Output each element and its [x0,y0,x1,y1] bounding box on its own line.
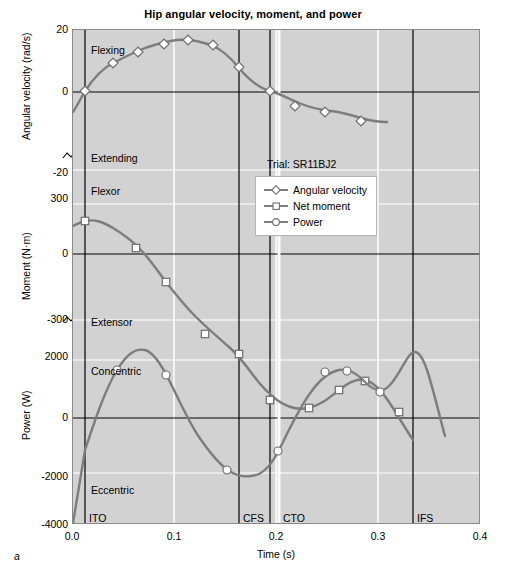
chart-title: Hip angular velocity, moment, and power [0,8,506,20]
plot-area: Flexing Extending Flexor Extensor Concen… [72,29,480,524]
event-label-ito: ITO [89,512,106,524]
event-label-cfs: CFS [243,512,264,524]
x-tick-2: 0.2 [256,530,296,542]
figure-container: Hip angular velocity, moment, and power … [0,0,506,577]
y-axis-label-moment: Moment (N·m) [20,232,32,300]
y-tick-av-neg20: -20 [24,166,68,178]
annotation-flexor: Flexor [91,185,120,197]
trial-label: Trial: SR11BJ2 [267,158,336,170]
x-tick-1: 0.1 [154,530,194,542]
annotation-extensor: Extensor [91,316,132,328]
y-tick-pow-2000: 2000 [24,350,68,362]
annotation-concentric: Concentric [91,365,141,377]
y-tick-pow-neg4000: -4000 [24,518,68,530]
legend-item-angular-velocity[interactable]: Angular velocity [263,182,367,198]
x-tick-0: 0.0 [52,530,92,542]
y-tick-pow-neg2000: -2000 [24,470,68,482]
y-tick-pow-0: 0 [24,411,68,423]
y-tick-mom-0: 0 [24,247,68,259]
series-markers-power [113,366,384,474]
legend-label-angular-velocity: Angular velocity [293,184,367,196]
legend: Angular velocity Net moment Power [255,176,377,236]
x-tick-4: 0.4 [460,530,500,542]
legend-label-net-moment: Net moment [293,200,350,212]
event-label-ifs: IFS [417,512,433,524]
plot-svg [73,30,479,523]
annotation-eccentric: Eccentric [91,484,134,496]
y-tick-av-0: 0 [24,85,68,97]
x-tick-3: 0.3 [358,530,398,542]
event-lines [85,30,413,523]
annotation-flexing: Flexing [91,44,125,56]
legend-item-net-moment[interactable]: Net moment [263,198,367,214]
legend-marker-circle-icon [263,216,289,228]
series-net-moment [73,217,413,440]
legend-marker-diamond-icon [263,184,289,196]
annotation-extending: Extending [91,152,138,164]
x-axis-label: Time (s) [216,548,336,560]
y-tick-mom-300: 300 [24,192,68,204]
legend-label-power: Power [293,216,323,228]
legend-item-power[interactable]: Power [263,214,367,230]
panel-label: a [14,550,20,562]
legend-marker-square-icon [263,200,289,212]
event-label-cto: CTO [283,512,305,524]
y-tick-av-20: 20 [24,23,68,35]
